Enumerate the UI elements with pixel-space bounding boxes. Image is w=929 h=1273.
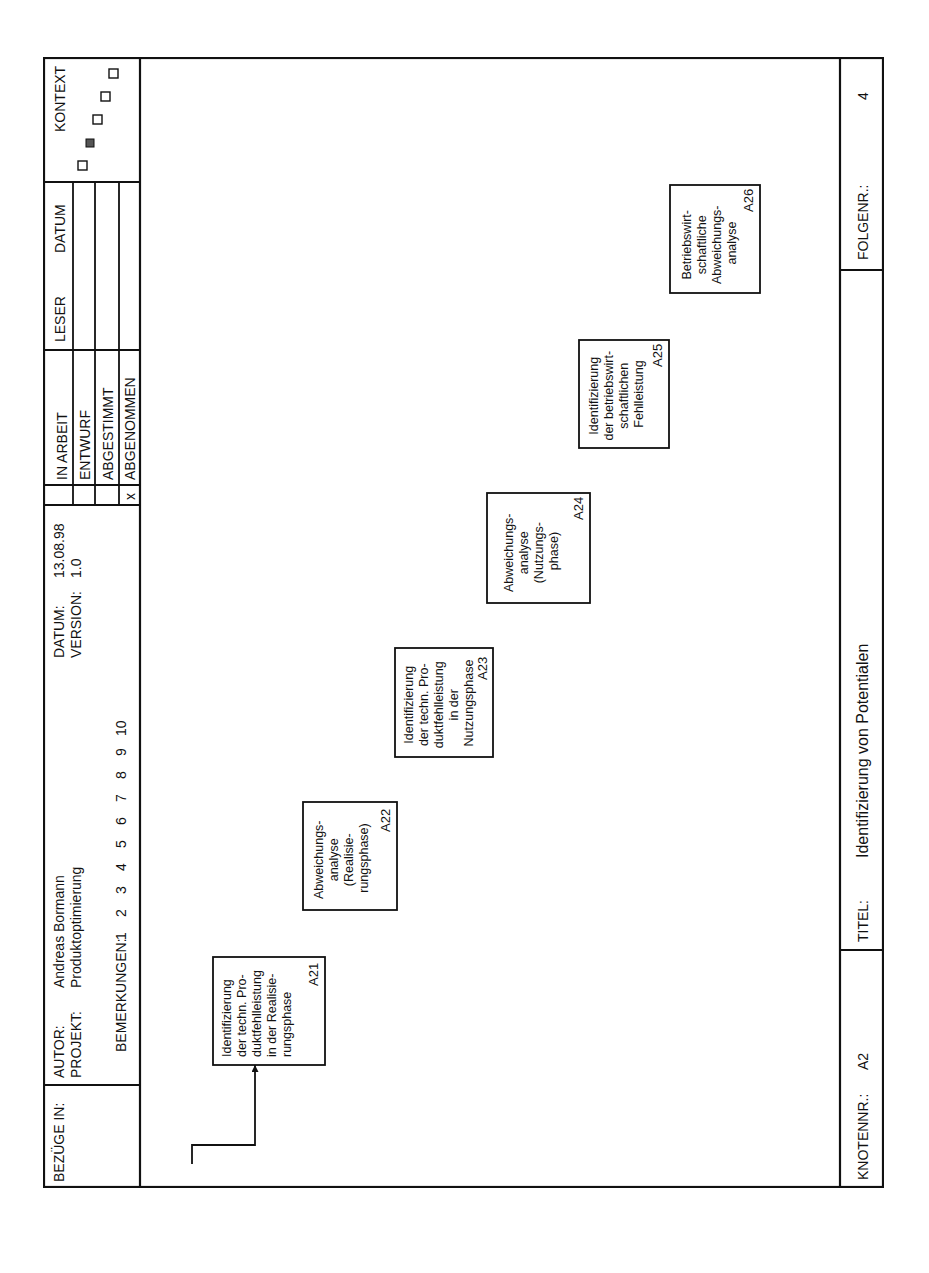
context-node-icon xyxy=(101,92,110,101)
bemerkungen-label: BEMERKUNGEN: xyxy=(113,938,129,1052)
kontext-node-icons xyxy=(78,69,118,170)
idef0-sheet: BEZÜGE IN: AUTOR: Andreas Bormann PROJEK… xyxy=(43,57,884,1188)
idef0-landscape-page: BEZÜGE IN: AUTOR: Andreas Bormann PROJEK… xyxy=(43,57,884,1188)
status-label-abgestimmt: ABGESTIMMT xyxy=(100,387,116,480)
context-node-icon xyxy=(93,115,102,124)
activity-box-a24[interactable]: Abweichungs- analyse (Nutzungs- phase) A… xyxy=(487,493,590,603)
svg-text:1: 1 xyxy=(113,932,129,940)
titel-label: TITEL: xyxy=(855,900,871,942)
datum-value: 13.08.98 xyxy=(51,523,67,578)
activity-box-a21[interactable]: Identifizierung der techn. Pro- duktfehl… xyxy=(213,957,325,1065)
svg-text:9: 9 xyxy=(113,748,129,756)
activity-label: Identifizierung der betriebswirt- schaft… xyxy=(587,347,646,440)
leser-label: LESER xyxy=(52,296,68,342)
status-label-entwurf: ENTWURF xyxy=(77,410,93,480)
svg-text:5: 5 xyxy=(113,840,129,848)
svg-text:2: 2 xyxy=(113,909,129,917)
projekt-label: PROJEKT: xyxy=(68,1011,84,1078)
activity-id: A21 xyxy=(306,963,321,986)
autor-value: Andreas Bormann xyxy=(51,875,67,988)
header-block: BEZÜGE IN: AUTOR: Andreas Bormann PROJEK… xyxy=(43,57,140,1188)
footer-block: KNOTENNR.: A2 TITEL: Identifizierung von… xyxy=(840,57,884,1188)
svg-text:8: 8 xyxy=(113,771,129,779)
status-checkbox-abgenommen[interactable]: x xyxy=(122,493,138,500)
context-node-icon xyxy=(109,69,118,78)
input-arrows xyxy=(192,1065,255,1180)
titel-value: Identifizierung von Potentialen xyxy=(854,644,871,858)
folgenr-value: 4 xyxy=(855,92,871,100)
svg-text:3: 3 xyxy=(113,886,129,894)
svg-text:4: 4 xyxy=(113,863,129,871)
folgenr-label: FOLGENR.: xyxy=(855,185,871,260)
version-value: 1.0 xyxy=(68,558,84,578)
version-label: VERSION: xyxy=(68,591,84,658)
svg-text:7: 7 xyxy=(113,794,129,802)
activity-label: Identifizierung der techn. Pro- duktfehl… xyxy=(402,658,476,748)
bemerkungen-numbers: 1 2 3 4 5 6 7 8 9 10 xyxy=(113,720,129,940)
activity-id: A24 xyxy=(571,497,586,520)
activity-id: A23 xyxy=(475,657,490,680)
activity-id: A25 xyxy=(650,344,665,367)
activity-box-a26[interactable]: Betriebswirt- schaftliche Abweichungs- a… xyxy=(670,185,760,293)
activity-id: A22 xyxy=(378,809,393,832)
activity-box-a23[interactable]: Identifizierung der techn. Pro- duktfehl… xyxy=(395,648,493,757)
input-arrow-i1 xyxy=(192,1065,255,1164)
context-node-icon xyxy=(78,161,87,170)
activity-box-a25[interactable]: Identifizierung der betriebswirt- schaft… xyxy=(579,340,669,448)
activity-box-a22[interactable]: Abweichungs- analyse (Realisie- rungspha… xyxy=(303,802,397,910)
bezuege-label: BEZÜGE IN: xyxy=(50,1103,67,1182)
autor-label: AUTOR: xyxy=(51,1025,67,1078)
knotennr-label: KNOTENNR.: xyxy=(855,1094,871,1180)
datum-label: DATUM: xyxy=(51,605,67,658)
context-node-current-icon xyxy=(86,139,94,147)
svg-text:6: 6 xyxy=(113,817,129,825)
activity-id: A26 xyxy=(741,189,756,212)
datum-column-label: DATUM xyxy=(52,204,68,253)
status-label-in-arbeit: IN ARBEIT xyxy=(54,412,70,480)
projekt-value: Produktoptimierung xyxy=(68,867,84,988)
kontext-label: KONTEXT xyxy=(52,65,68,132)
status-label-abgenommen: ABGENOMMEN xyxy=(122,377,138,480)
knotennr-value: A2 xyxy=(855,1053,871,1070)
svg-text:10: 10 xyxy=(113,720,129,736)
